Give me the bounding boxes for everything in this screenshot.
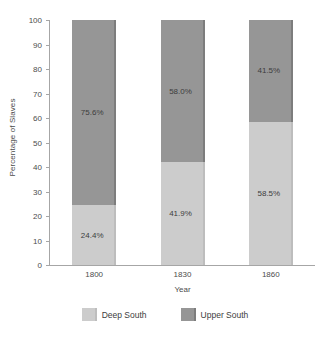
chart-legend: Deep SouthUpper South bbox=[0, 308, 330, 321]
y-axis-tick-label: 30 bbox=[33, 187, 42, 196]
y-axis-tickmark bbox=[46, 69, 49, 70]
bar-value-label: 24.4% bbox=[81, 231, 104, 240]
bar-group[interactable]: 58.5%41.5% bbox=[249, 20, 293, 265]
bar-group[interactable]: 24.4%75.6% bbox=[72, 20, 116, 265]
y-axis-tickmark bbox=[46, 94, 49, 95]
y-axis-tick-label: 90 bbox=[33, 40, 42, 49]
y-axis-tick-label: 60 bbox=[33, 114, 42, 123]
y-axis-tick-label: 40 bbox=[33, 163, 42, 172]
y-axis-tickmark bbox=[46, 20, 49, 21]
y-axis-tickmark bbox=[46, 118, 49, 119]
x-axis-title: Year bbox=[50, 285, 315, 294]
y-axis-title-text: Percentage of Slaves bbox=[8, 98, 17, 176]
bar-segment[interactable]: 75.6% bbox=[72, 20, 116, 205]
y-axis-tick-label: 70 bbox=[33, 89, 42, 98]
plot-area: 24.4%75.6%41.9%58.0%58.5%41.5% bbox=[50, 20, 315, 265]
x-axis-tick-label: 1830 bbox=[153, 270, 213, 279]
bar-segment[interactable]: 58.5% bbox=[249, 122, 293, 265]
stacked-bar-chart: Percentage of Slaves 0102030405060708090… bbox=[0, 0, 330, 340]
legend-label: Deep South bbox=[102, 310, 147, 320]
bar-value-label: 41.9% bbox=[169, 209, 192, 218]
bar-segment[interactable]: 24.4% bbox=[72, 205, 116, 265]
y-axis-tickmark bbox=[46, 143, 49, 144]
bar-value-label: 58.5% bbox=[257, 189, 280, 198]
x-axis-tick-labels: 180018301860 bbox=[50, 270, 315, 284]
y-axis-tickmark bbox=[46, 216, 49, 217]
y-axis-tick-label: 0 bbox=[38, 261, 42, 270]
x-axis-tick-label: 1800 bbox=[64, 270, 124, 279]
y-axis-tickmark bbox=[46, 45, 49, 46]
y-axis-tickmark bbox=[46, 241, 49, 242]
bar-value-label: 75.6% bbox=[81, 108, 104, 117]
y-axis-tick-label: 80 bbox=[33, 65, 42, 74]
bar-value-label: 58.0% bbox=[169, 87, 192, 96]
bar-segment[interactable]: 41.5% bbox=[249, 20, 293, 122]
y-axis-tick-label: 20 bbox=[33, 212, 42, 221]
y-axis-tickmark bbox=[46, 192, 49, 193]
y-axis-tick-label: 50 bbox=[33, 138, 42, 147]
y-axis-tick-label: 100 bbox=[29, 16, 42, 25]
legend-label: Upper South bbox=[201, 310, 249, 320]
bar-segment[interactable]: 41.9% bbox=[161, 162, 205, 265]
legend-swatch bbox=[82, 308, 97, 321]
y-axis-tick-labels: 0102030405060708090100 bbox=[20, 20, 46, 265]
y-axis-tickmark bbox=[46, 167, 49, 168]
x-axis-line bbox=[49, 265, 315, 266]
legend-item[interactable]: Deep South bbox=[82, 308, 147, 321]
y-axis-tickmark bbox=[46, 265, 49, 266]
bar-value-label: 41.5% bbox=[257, 66, 280, 75]
bar-group[interactable]: 41.9%58.0% bbox=[161, 20, 205, 265]
legend-item[interactable]: Upper South bbox=[181, 308, 249, 321]
bar-segment[interactable]: 58.0% bbox=[161, 20, 205, 162]
x-axis-tick-label: 1860 bbox=[241, 270, 301, 279]
legend-swatch bbox=[181, 308, 196, 321]
y-axis-tick-label: 10 bbox=[33, 236, 42, 245]
